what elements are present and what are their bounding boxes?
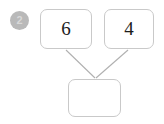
step-number-badge: 2: [10, 11, 29, 30]
addend-box-left[interactable]: 6: [40, 9, 92, 49]
connector-right-to-sum-icon: [96, 50, 128, 78]
addend-box-right[interactable]: 4: [104, 9, 154, 49]
connector-left-to-sum-icon: [66, 50, 95, 78]
addend-left-value: 6: [61, 18, 71, 40]
addend-right-value: 4: [124, 18, 134, 40]
number-bond-diagram: 2 6 4: [0, 0, 164, 124]
sum-answer-box[interactable]: [68, 79, 121, 117]
